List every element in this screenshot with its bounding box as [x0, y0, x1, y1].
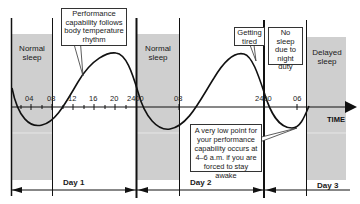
tick-label: 06 — [293, 95, 301, 103]
sleep-label: Normal sleep — [139, 44, 177, 62]
tick-label: 16 — [89, 95, 97, 103]
performance-callout: Performance capability follows body temp… — [61, 8, 127, 46]
day-label: Day 2 — [190, 178, 211, 187]
no-sleep-callout: No sleep due to night duty — [268, 27, 303, 65]
day-label: Day 3 — [317, 181, 338, 190]
tick-label: 08 — [47, 95, 55, 103]
tick-label: 20 — [110, 95, 118, 103]
day-label: Day 1 — [63, 178, 84, 187]
tick-label: 2400 — [127, 95, 144, 103]
low-point-callout: A very low point for your performance ca… — [190, 124, 262, 172]
sleep-label: Delayed sleep — [309, 48, 345, 66]
tick-label: 04 — [25, 95, 33, 103]
tick-label: 12 — [68, 95, 76, 103]
time-axis-label: TIME — [327, 115, 345, 124]
tick-label: 2400 — [255, 95, 272, 103]
getting-tired-callout: Getting tired — [234, 27, 265, 46]
tick-label: 08 — [174, 95, 182, 103]
time-axis-arrow-icon — [345, 101, 357, 113]
sleep-label: Normal sleep — [14, 44, 50, 62]
